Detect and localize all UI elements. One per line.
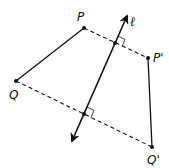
segment-p-prime-q-prime xyxy=(148,58,152,147)
reflection-diagram: P Q P' Q' ℓ xyxy=(0,0,169,168)
point-q-prime xyxy=(150,145,154,149)
foot-point-bottom xyxy=(82,112,86,116)
point-p xyxy=(82,26,86,30)
segment-pq xyxy=(16,28,84,81)
label-q: Q xyxy=(9,88,18,102)
point-q xyxy=(14,79,18,83)
label-q-prime: Q' xyxy=(147,153,160,167)
point-p-prime xyxy=(146,56,150,60)
label-p-prime: P' xyxy=(153,51,164,65)
label-line-l: ℓ xyxy=(130,14,136,29)
label-p: P xyxy=(77,10,85,24)
diagram-svg: P Q P' Q' ℓ xyxy=(0,0,169,168)
foot-point-top xyxy=(113,41,117,45)
